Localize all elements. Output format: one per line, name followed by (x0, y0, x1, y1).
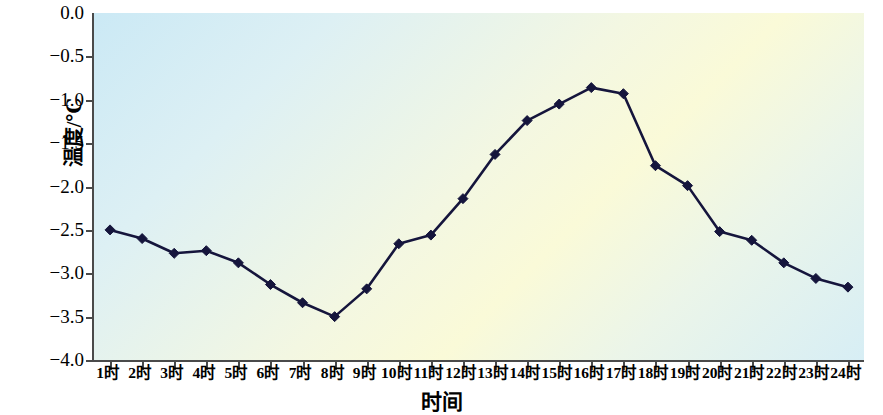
x-axis-tick-label: 24时 (824, 364, 868, 382)
y-axis-tick-mark (86, 56, 94, 58)
y-axis-tick-mark (86, 187, 94, 189)
data-point-marker (618, 89, 628, 99)
y-axis-tick-mark (86, 100, 94, 102)
data-point-marker (298, 298, 308, 308)
y-axis-tick-label: 0.0 (24, 3, 84, 22)
y-axis-tick-mark (86, 143, 94, 145)
y-axis-tick-label: −3.5 (24, 307, 84, 326)
y-axis-tick-labels: 0.0−0.5−1.0−1.5−2.0−2.5−3.0−3.5−4.0 (20, 0, 84, 411)
y-axis-tick-mark (86, 230, 94, 232)
y-axis-tick-label: −3.0 (24, 263, 84, 282)
y-axis-tick-label: −2.5 (24, 220, 84, 239)
y-axis-tick-label: −1.0 (24, 90, 84, 109)
series-plot (94, 13, 864, 360)
y-axis-tick-label: −0.5 (24, 46, 84, 65)
series-markers (105, 83, 853, 322)
y-axis-tick-mark (86, 317, 94, 319)
data-point-marker (843, 282, 853, 292)
data-point-marker (137, 234, 147, 244)
data-point-marker (105, 225, 115, 235)
data-point-marker (554, 99, 564, 109)
y-axis-tick-label: −2.0 (24, 177, 84, 196)
y-axis-tick-label: −4.0 (24, 350, 84, 369)
y-axis-tick-mark (86, 273, 94, 275)
plot-area (92, 13, 864, 362)
data-point-marker (169, 248, 179, 258)
data-point-marker (586, 83, 596, 93)
series-line (110, 88, 848, 317)
y-axis-tick-label: −1.5 (24, 133, 84, 152)
data-point-marker (201, 246, 211, 256)
x-axis-title: 时间 (0, 385, 883, 415)
data-point-marker (811, 273, 821, 283)
y-axis-tick-mark (86, 360, 94, 362)
